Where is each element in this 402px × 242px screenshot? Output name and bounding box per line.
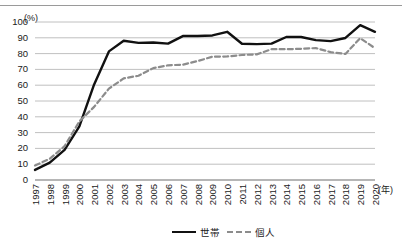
x-axis-tick-label: 2006 [163,184,174,205]
x-axis-tick-label: 2000 [74,184,85,205]
x-axis-tick-label: 2014 [281,184,292,205]
x-axis-tick-label: 2002 [104,184,115,205]
y-axis-tick-label: 20 [2,143,28,152]
legend-label-household: 世帯 [200,225,220,239]
plot-area [0,0,402,242]
internet-usage-line-chart: (%) 0102030405060708090100 1997199819992… [0,0,402,242]
x-axis-unit-label: (年) [378,183,393,196]
x-axis-tick-label: 2007 [178,184,189,205]
y-axis-tick-label: 80 [2,49,28,58]
y-axis-tick-label: 60 [2,80,28,89]
y-axis-tick-label: 10 [2,159,28,168]
x-axis-tick-label: 2008 [193,184,204,205]
x-axis-tick-label: 2013 [267,184,278,205]
x-axis-tick-label: 2005 [148,184,159,205]
legend-item-household: 世帯 [172,225,220,239]
x-axis-tick-label: 2011 [237,184,248,204]
y-axis-tick-label: 30 [2,128,28,137]
gridlines-group [35,22,375,180]
x-axis-tick-label: 2017 [326,184,337,205]
y-axis-tick-label: 0 [2,175,28,184]
x-axis-tick-label: 1997 [30,184,41,205]
x-axis-tick-label: 2010 [222,184,233,205]
chart-legend: 世帯 個人 [172,225,275,239]
x-axis-tick-label: 1999 [60,184,71,205]
x-axis-tick-label: 2012 [252,184,263,205]
y-axis-tick-label: 100 [2,17,28,26]
legend-swatch-solid-icon [172,231,196,233]
x-axis-tick-label: 2015 [296,184,307,205]
legend-swatch-dashed-icon [227,231,251,233]
legend-item-individual: 個人 [227,225,275,239]
x-axis-tick-label: 2003 [119,184,130,205]
x-axis-tick-label: 2016 [311,184,322,205]
x-axis-tick-label: 1998 [45,184,56,205]
x-axis-tick-label: 2001 [89,184,100,205]
series-line-individual [35,38,375,165]
y-axis-tick-label: 50 [2,96,28,105]
x-axis-tick-label: 2009 [207,184,218,205]
y-axis-tick-label: 70 [2,64,28,73]
x-axis-tick-label: 2018 [340,184,351,205]
y-axis-tick-label: 40 [2,112,28,121]
x-axis-tick-label: 2004 [133,184,144,205]
x-axis-tick-label: 2019 [355,184,366,205]
y-axis-tick-label: 90 [2,33,28,42]
legend-label-individual: 個人 [255,225,275,239]
